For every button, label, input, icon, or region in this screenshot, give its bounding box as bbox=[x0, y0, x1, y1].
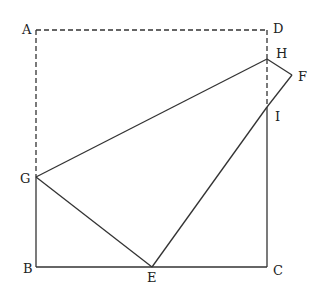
segment-GE bbox=[36, 177, 152, 267]
label-E: E bbox=[147, 270, 157, 285]
label-I: I bbox=[275, 109, 280, 124]
geometry-diagram: A D H F I G B E C bbox=[0, 0, 323, 296]
segment-HF bbox=[267, 59, 292, 75]
label-C: C bbox=[273, 263, 283, 278]
segment-FI bbox=[267, 75, 292, 107]
segment-IE bbox=[152, 107, 267, 267]
label-F: F bbox=[298, 69, 307, 84]
label-G: G bbox=[20, 171, 30, 186]
label-A: A bbox=[21, 22, 32, 37]
label-B: B bbox=[23, 261, 33, 276]
segment-GH bbox=[36, 59, 267, 177]
label-H: H bbox=[276, 46, 287, 61]
label-D: D bbox=[273, 21, 283, 36]
